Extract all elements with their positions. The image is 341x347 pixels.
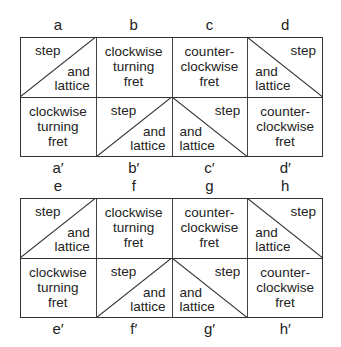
column-label: g [172, 178, 248, 194]
tile-label-and: and [143, 285, 166, 300]
tile: stepandlattice [20, 37, 96, 97]
tile-label: clockwiseturningfret [20, 104, 96, 149]
column-label-prime: a′ [20, 160, 96, 176]
tile-label-step: step [35, 204, 61, 219]
column-label-prime: b′ [96, 160, 172, 176]
column-label: e [20, 178, 96, 194]
tile-label-step: step [35, 43, 61, 58]
tile-label-lattice: lattice [255, 239, 290, 254]
tile-label-step: step [111, 103, 137, 118]
tile: stepandlattice [96, 97, 172, 157]
tile: stepandlattice [247, 198, 323, 258]
tile-label-line: clockwise [20, 104, 96, 119]
tile-label: counter-clockwisefret [247, 104, 323, 149]
tile: clockwiseturningfret [96, 198, 172, 258]
tile-label-line: clockwise [96, 205, 172, 220]
tile-label-line: turning [20, 280, 96, 295]
tile-label-lattice: lattice [54, 239, 89, 254]
column-label: f [96, 178, 172, 194]
tile-label-line: fret [247, 134, 323, 149]
tile-label-line: clockwise [172, 59, 248, 74]
tile-label: counter-clockwisefret [172, 44, 248, 89]
tile-label: clockwiseturningfret [96, 44, 172, 89]
tile-label-step: step [215, 103, 241, 118]
column-label-prime: g′ [172, 321, 248, 337]
tile-label-line: fret [96, 74, 172, 89]
tile-label: clockwiseturningfret [20, 265, 96, 310]
tile-label: clockwiseturningfret [96, 205, 172, 250]
tile-label-line: clockwise [172, 220, 248, 235]
tile-label-line: fret [172, 74, 248, 89]
tile-label-and: and [255, 64, 278, 79]
tile-label: counter-clockwisefret [172, 205, 248, 250]
tile: counter-clockwisefret [172, 37, 248, 97]
tile: stepandlattice [247, 37, 323, 97]
tile: counter-clockwisefret [172, 198, 248, 258]
tile-block: stepandlatticeclockwiseturningfretcounte… [20, 37, 323, 157]
tile-label-line: fret [20, 295, 96, 310]
column-label-prime: c′ [172, 160, 248, 176]
column-label-prime: f′ [96, 321, 172, 337]
tile-label-line: clockwise [20, 265, 96, 280]
tile-label-line: turning [96, 220, 172, 235]
column-label: b [96, 17, 172, 33]
column-label-prime: e′ [20, 321, 96, 337]
tile-label-and: and [67, 64, 90, 79]
tile-label-line: turning [20, 119, 96, 134]
tile-label-lattice: lattice [180, 299, 215, 314]
tile: clockwiseturningfret [20, 97, 96, 157]
tile-label-and: and [67, 225, 90, 240]
tile-label-and: and [180, 285, 203, 300]
tile-label-lattice: lattice [255, 78, 290, 93]
tile-label-line: clockwise [247, 119, 323, 134]
tile-label-line: fret [96, 235, 172, 250]
column-label: d [247, 17, 323, 33]
tile-block: stepandlatticeclockwiseturningfretcounte… [20, 198, 323, 318]
tile-label-line: fret [247, 295, 323, 310]
tile-label-lattice: lattice [180, 138, 215, 153]
tile-label-line: clockwise [247, 280, 323, 295]
tile-label-line: counter- [247, 265, 323, 280]
tile-label-step: step [111, 264, 137, 279]
tile-label: counter-clockwisefret [247, 265, 323, 310]
tile-label-step: step [290, 43, 316, 58]
tile: stepandlattice [172, 97, 248, 157]
tile: stepandlattice [172, 258, 248, 318]
tile-label-line: clockwise [96, 44, 172, 59]
tile-label-lattice: lattice [130, 299, 165, 314]
tile-label-step: step [215, 264, 241, 279]
tile-label-line: fret [172, 235, 248, 250]
tile: stepandlattice [20, 198, 96, 258]
tile-label-and: and [180, 124, 203, 139]
tile-label-line: fret [20, 134, 96, 149]
tile-label-line: counter- [247, 104, 323, 119]
tile-label-line: turning [96, 59, 172, 74]
tile: stepandlattice [96, 258, 172, 318]
tile-label-line: counter- [172, 205, 248, 220]
tile-label-lattice: lattice [130, 138, 165, 153]
column-label: a [20, 17, 96, 33]
tile: clockwiseturningfret [20, 258, 96, 318]
tile-label-line: counter- [172, 44, 248, 59]
column-label-prime: h′ [247, 321, 323, 337]
tile: counter-clockwisefret [247, 258, 323, 318]
tile-label-and: and [143, 124, 166, 139]
tile-label-lattice: lattice [54, 78, 89, 93]
tile: clockwiseturningfret [96, 37, 172, 97]
tile-label-step: step [290, 204, 316, 219]
tile: counter-clockwisefret [247, 97, 323, 157]
column-label: h [247, 178, 323, 194]
column-label-prime: d′ [247, 160, 323, 176]
column-label: c [172, 17, 248, 33]
tile-label-and: and [255, 225, 278, 240]
